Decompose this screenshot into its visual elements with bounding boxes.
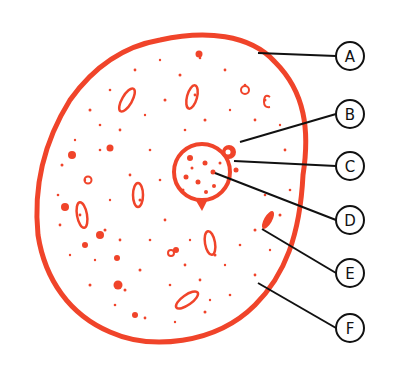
label-letter-d: D: [344, 212, 356, 230]
label-letter-c: C: [345, 158, 355, 176]
label-letter-b: B: [345, 106, 355, 124]
label-letter-f: F: [346, 320, 355, 338]
label-letter-e: E: [345, 265, 354, 283]
leader-line-f: [258, 283, 336, 328]
label-letter-a: A: [345, 48, 356, 66]
cell-diagram: ABCDEF: [0, 0, 396, 372]
cell-membrane: [37, 35, 306, 342]
